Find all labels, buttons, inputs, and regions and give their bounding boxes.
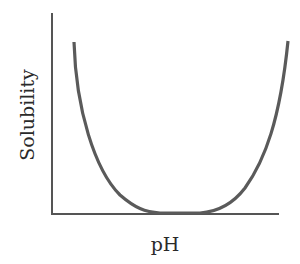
solubility-ph-diagram: Solubility pH — [0, 0, 300, 264]
y-axis-label: Solubility — [16, 69, 38, 161]
x-axis-label: pH — [151, 233, 180, 255]
solubility-curve — [74, 41, 288, 213]
plot-area — [0, 0, 300, 264]
